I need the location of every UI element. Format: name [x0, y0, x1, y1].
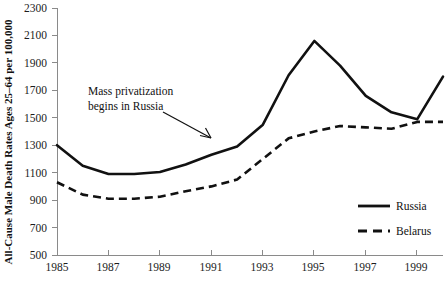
y-axis-tick-marks: [52, 8, 57, 255]
annotation-line-1: Mass privatization: [88, 85, 174, 98]
x-tick-label: 1987: [97, 261, 120, 273]
x-tick-label: 1997: [354, 261, 377, 273]
mass-privatization-annotation: Mass privatization begins in Russia: [88, 85, 211, 138]
legend-item-russia: Russia: [358, 200, 427, 212]
line-chart-canvas: All-Cause Male Death Rates Ages 25–64 pe…: [0, 0, 445, 285]
y-axis-title: All-Cause Male Death Rates Ages 25–64 pe…: [2, 19, 14, 264]
x-tick-label: 1995: [302, 261, 325, 273]
y-tick-label: 1100: [24, 167, 47, 179]
y-axis-title-group: All-Cause Male Death Rates Ages 25–64 pe…: [2, 19, 14, 264]
x-tick-label: 1989: [148, 261, 171, 273]
annotation-arrow-icon: [163, 112, 211, 138]
y-tick-label: 2100: [24, 29, 47, 41]
y-tick-label: 2300: [24, 2, 47, 14]
x-axis-tick-labels: 1985 1987 1989 1991 1993 1995 1997 1999: [46, 261, 428, 273]
y-tick-label: 700: [30, 222, 48, 234]
legend-label-belarus: Belarus: [396, 225, 432, 237]
x-tick-label: 1993: [251, 261, 274, 273]
series-line-belarus: [57, 122, 443, 199]
annotation-line-2: begins in Russia: [88, 100, 163, 113]
y-tick-label: 500: [30, 249, 48, 261]
y-tick-label: 1500: [24, 112, 47, 124]
legend-item-belarus: Belarus: [358, 225, 432, 237]
x-tick-label: 1991: [200, 261, 223, 273]
y-tick-label: 900: [30, 194, 48, 206]
x-tick-label: 1985: [46, 261, 69, 273]
legend: Russia Belarus: [358, 200, 432, 237]
y-tick-label: 1700: [24, 84, 47, 96]
legend-label-russia: Russia: [396, 200, 427, 212]
y-tick-label: 1900: [24, 57, 47, 69]
y-axis-tick-labels: 2300 2100 1900 1700 1500 1300 1100 900 7…: [24, 2, 47, 261]
y-tick-label: 1300: [24, 139, 47, 151]
x-tick-label: 1999: [405, 261, 428, 273]
axis-lines: [57, 8, 443, 255]
x-axis-tick-marks: [57, 250, 416, 255]
chart-figure: All-Cause Male Death Rates Ages 25–64 pe…: [0, 0, 445, 285]
